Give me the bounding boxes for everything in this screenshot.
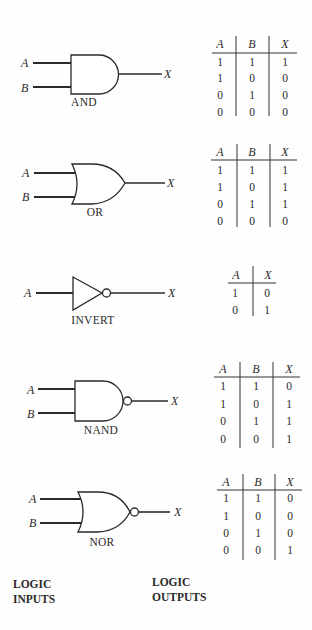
and-cell: 0	[282, 106, 288, 118]
nor-cell: 0	[255, 510, 261, 522]
logic-outputs-caption-line1: LOGIC	[152, 575, 206, 590]
nor-cell: 0	[287, 492, 293, 504]
invert-gate-icon	[73, 277, 102, 310]
nand-table-header-b: B	[252, 362, 260, 376]
or-truth-table: A B X 1 1 1 1 0 1 0 1 1 0 0 0	[211, 144, 297, 227]
or-output-x-label: X	[166, 176, 175, 190]
nor-cell: 1	[287, 544, 293, 556]
nand-gate-name: NAND	[84, 424, 118, 436]
and-cell: 0	[249, 106, 255, 118]
logic-inputs-caption: LOGIC INPUTS	[13, 577, 55, 607]
nor-truth-table: A B X 1 1 0 1 0 0 0 1 0 0 0 1	[217, 474, 302, 560]
or-table-header-x: X	[280, 145, 289, 159]
nand-cell: 1	[286, 398, 292, 410]
nand-table-header-x: X	[284, 362, 293, 376]
or-table-header-a: A	[215, 145, 224, 159]
or-cell: 0	[217, 215, 223, 227]
and-output-x-label: X	[163, 67, 172, 81]
nor-output-x-label: X	[173, 505, 182, 519]
nor-input-a-label: A	[28, 492, 37, 506]
nor-cell: 0	[287, 527, 293, 539]
nand-cell: 1	[253, 380, 259, 392]
invert-cell: 1	[264, 304, 270, 316]
nand-cell: 0	[253, 433, 259, 445]
nand-gate-diagram: A B X NAND	[26, 381, 179, 436]
or-cell: 1	[217, 181, 223, 193]
or-cell: 1	[282, 164, 288, 176]
or-gate-icon	[72, 164, 125, 204]
nand-input-b-label: B	[27, 407, 35, 421]
logic-gates-diagram: A B X AND A B X 1 1 1 1 0 0 0 1 0 0 0 0 …	[0, 0, 312, 630]
and-table-header-a: A	[215, 37, 224, 51]
or-cell: 0	[249, 181, 255, 193]
and-cell: 1	[249, 56, 255, 68]
nor-table-header-x: X	[285, 475, 294, 489]
nor-cell: 0	[255, 544, 261, 556]
nand-cell: 1	[286, 415, 292, 427]
nand-input-a-label: A	[26, 383, 35, 397]
or-cell: 0	[282, 215, 288, 227]
nor-cell: 1	[223, 510, 229, 522]
or-cell: 1	[217, 164, 223, 176]
invert-table-header-a: A	[231, 268, 240, 282]
and-cell: 0	[282, 72, 288, 84]
nor-table-header-b: B	[254, 475, 262, 489]
nor-cell: 0	[223, 544, 229, 556]
logic-outputs-caption: LOGIC OUTPUTS	[152, 575, 206, 605]
nand-cell: 0	[286, 380, 292, 392]
nand-cell: 0	[220, 415, 226, 427]
logic-inputs-caption-line1: LOGIC	[13, 577, 55, 592]
nor-cell: 1	[255, 527, 261, 539]
and-cell: 0	[249, 72, 255, 84]
and-input-b-label: B	[21, 81, 29, 95]
invert-output-x-label: X	[167, 286, 176, 300]
nor-input-b-label: B	[29, 516, 37, 530]
or-cell: 1	[249, 164, 255, 176]
nor-cell: 0	[223, 527, 229, 539]
nand-bubble-icon	[124, 397, 132, 405]
or-cell: 0	[217, 198, 223, 210]
nor-cell: 0	[287, 510, 293, 522]
invert-input-a-label: A	[23, 286, 32, 300]
and-cell: 0	[217, 106, 223, 118]
and-table-header-b: B	[248, 37, 256, 51]
or-cell: 1	[282, 181, 288, 193]
and-cell: 1	[217, 72, 223, 84]
nand-cell: 1	[220, 380, 226, 392]
or-gate-diagram: A B X OR	[21, 164, 175, 218]
and-cell: 1	[249, 89, 255, 101]
and-cell: 1	[217, 56, 223, 68]
invert-cell: 0	[232, 304, 238, 316]
logic-outputs-caption-line2: OUTPUTS	[152, 590, 206, 605]
or-cell: 1	[249, 198, 255, 210]
and-table-header-x: X	[280, 37, 289, 51]
and-cell: 0	[217, 89, 223, 101]
or-gate-name: OR	[87, 206, 104, 218]
nand-cell: 1	[253, 415, 259, 427]
nand-cell: 1	[286, 433, 292, 445]
nor-cell: 1	[255, 492, 261, 504]
invert-table-header-x: X	[263, 268, 272, 282]
or-cell: 1	[282, 198, 288, 210]
and-gate-icon	[71, 55, 119, 94]
invert-bubble-icon	[103, 289, 111, 297]
and-truth-table: A B X 1 1 1 1 0 0 0 1 0 0 0 0	[212, 36, 297, 118]
and-input-a-label: A	[20, 56, 29, 70]
nor-gate-diagram: A B X NOR	[28, 492, 182, 548]
nand-output-x-label: X	[170, 394, 179, 408]
logic-inputs-caption-line2: INPUTS	[13, 592, 55, 607]
nor-table-header-a: A	[221, 475, 230, 489]
invert-gate-name: INVERT	[71, 314, 114, 326]
nor-cell: 1	[223, 492, 229, 504]
nand-truth-table: A B X 1 1 0 1 0 1 0 1 1 0 0 1	[214, 362, 300, 448]
invert-gate-diagram: A X INVERT	[23, 277, 176, 326]
and-cell: 1	[282, 56, 288, 68]
invert-truth-table: A X 1 0 0 1	[228, 266, 276, 316]
nand-table-header-a: A	[218, 362, 227, 376]
nand-gate-icon	[75, 381, 123, 421]
or-table-header-b: B	[248, 145, 256, 159]
and-gate-name: AND	[71, 96, 97, 108]
and-gate-diagram: A B X AND	[20, 55, 172, 108]
or-input-a-label: A	[21, 166, 30, 180]
or-cell: 0	[249, 215, 255, 227]
